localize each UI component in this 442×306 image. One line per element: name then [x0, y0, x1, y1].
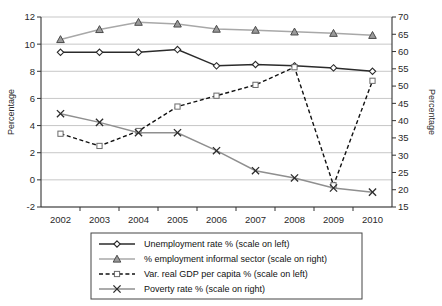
tick-label-x: 2004	[128, 214, 149, 225]
axis-title-right: Percentage	[427, 89, 437, 135]
tick-label-left: 0	[30, 174, 35, 185]
tick-label-right: 55	[398, 63, 409, 74]
data-point-diamond	[252, 61, 258, 67]
chart-legend: Unemployment rate % (scale on left)% emp…	[91, 233, 362, 299]
tick-label-right: 50	[398, 80, 409, 91]
data-point-diamond	[96, 49, 102, 55]
data-point-square	[97, 143, 102, 148]
legend-label-3: Poverty rate % (scale on right)	[144, 284, 265, 294]
tick-label-right: 25	[398, 167, 409, 178]
data-point-diamond	[213, 63, 219, 69]
tick-label-left: -2	[27, 201, 35, 212]
data-point-x	[213, 147, 220, 154]
series-line-2	[61, 67, 373, 185]
tick-label-right: 20	[398, 184, 409, 195]
tick-label-left: 2	[30, 147, 35, 158]
tick-label-left: 4	[30, 120, 35, 131]
tick-label-left: 12	[24, 11, 35, 22]
series-1	[57, 18, 377, 42]
tick-label-right: 60	[398, 46, 409, 57]
line-chart: -202468101215202530354045505560657020022…	[0, 0, 442, 306]
axis-title-left: Percentage	[6, 89, 16, 135]
data-point-diamond	[174, 46, 180, 52]
data-point-square	[175, 104, 180, 109]
tick-label-right: 40	[398, 115, 409, 126]
data-point-square	[370, 78, 375, 83]
data-point-square	[253, 82, 258, 87]
tick-label-right: 65	[398, 29, 409, 40]
tick-label-right: 35	[398, 132, 409, 143]
tick-label-right: 30	[398, 150, 409, 161]
tick-label-right: 15	[398, 201, 409, 212]
chart-container: -202468101215202530354045505560657020022…	[0, 0, 442, 306]
data-point-square	[114, 271, 119, 276]
tick-label-x: 2009	[323, 214, 344, 225]
tick-label-left: 8	[30, 66, 35, 77]
tick-label-x: 2006	[206, 214, 227, 225]
series-2	[58, 65, 375, 188]
tick-label-x: 2002	[50, 214, 71, 225]
tick-label-right: 70	[398, 11, 409, 22]
data-point-diamond	[57, 49, 63, 55]
tick-label-x: 2003	[89, 214, 110, 225]
tick-label-x: 2007	[245, 214, 266, 225]
data-point-diamond	[330, 65, 336, 71]
tick-label-x: 2008	[284, 214, 305, 225]
data-point-diamond	[369, 68, 375, 74]
tick-label-left: 10	[24, 39, 35, 50]
data-point-square	[214, 93, 219, 98]
data-point-square	[58, 131, 63, 136]
tick-label-left: 6	[30, 93, 35, 104]
tick-label-x: 2010	[362, 214, 383, 225]
data-point-square	[292, 65, 297, 70]
legend-label-1: % employment informal sector (scale on r…	[144, 254, 327, 264]
legend-label-0: Unemployment rate % (scale on left)	[144, 239, 290, 249]
tick-label-x: 2005	[167, 214, 188, 225]
series-0	[57, 46, 375, 74]
tick-label-right: 45	[398, 98, 409, 109]
legend-label-2: Var. real GDP per capita % (scale on lef…	[144, 269, 308, 279]
data-point-diamond	[135, 49, 141, 55]
